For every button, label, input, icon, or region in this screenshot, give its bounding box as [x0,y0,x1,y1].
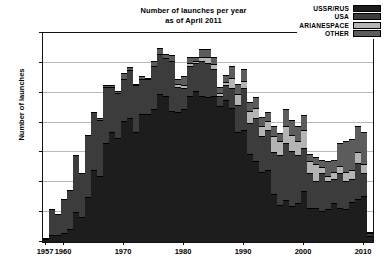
bar [349,139,354,242]
x-tick-label: 2000 [295,247,312,256]
bar-segment [325,176,330,180]
bar [133,84,138,242]
bar-segment [205,57,210,63]
legend-item: USA [299,13,381,22]
legend-item: ARIANESPACE [299,21,381,30]
bar [343,141,348,243]
bar-segment [283,200,288,242]
bar-segment [169,55,174,61]
bar-segment [145,78,150,79]
bar-segment [337,143,342,165]
x-tick-mark [363,241,364,245]
bar-segment [289,120,294,135]
bar-segment [79,217,84,242]
bar-segment [301,191,306,242]
bar-segment [199,57,204,61]
bar-segment [187,96,192,242]
bar-segment [247,102,252,111]
bar-segment [319,160,324,167]
bar-segment [181,109,186,242]
bar-segment [67,229,72,242]
bar-segment [313,181,318,208]
bar-segment [127,70,132,118]
bar-segment [295,203,300,242]
bar-segment [55,235,60,242]
bar-segment [115,138,120,243]
bar [367,232,372,242]
bar-segment [259,126,264,136]
bar [67,190,72,242]
bar-segment [277,141,282,156]
bar-segment [97,118,102,119]
bar-segment [229,108,234,242]
bar-segment [115,91,120,92]
bar-segment [331,203,336,242]
bar-segment [181,85,186,88]
x-tick-mark [63,241,64,245]
x-tick-mark [303,241,304,245]
bar [253,97,258,242]
bar-segment [175,112,180,242]
legend-item: USSR/RUS [299,4,381,13]
bar-segment [343,209,348,242]
bar-segment [121,73,126,79]
bar [259,117,264,242]
bar-segment [319,173,324,210]
bar-segment [271,136,276,152]
bar-segment [151,66,156,109]
bar-segment [355,126,360,153]
bar-segment [151,109,156,242]
bar-segment [295,126,300,141]
bar [151,61,156,242]
bar-segment [109,87,114,132]
bar [307,154,312,242]
bar [289,120,294,242]
legend-swatch [353,5,381,12]
bar [331,160,336,242]
bar-segment [199,49,204,56]
bar [313,157,318,242]
bar-segment [211,64,216,68]
bar-segment [157,54,162,94]
bar-segment [97,176,102,242]
bar-segment [187,63,192,66]
bar [163,54,168,242]
chart-container: Number of launches per year as of April … [0,0,387,271]
bar-segment [217,87,222,93]
bar-segment [133,84,138,85]
bar-segment [331,179,336,203]
bar-segment [277,205,282,242]
bar-segment [307,173,312,207]
bar-segment [163,96,168,242]
y-tick-mark [39,211,43,212]
bars-layer [43,33,373,242]
x-tick-label: 1957 [37,247,54,256]
bar-segment [97,120,102,177]
bar-segment [199,61,204,95]
bar [229,66,234,242]
bar [301,115,306,242]
bar [127,67,132,242]
bar [247,102,252,242]
bar-segment [133,85,138,131]
bar-segment [169,111,174,242]
bar-segment [127,118,132,242]
bar-segment [175,87,180,112]
bar-segment [283,143,288,200]
legend-swatch [353,13,381,20]
bar-segment [289,151,294,206]
bar-segment [223,75,228,82]
bar [175,79,180,242]
bar [187,57,192,242]
bar-segment [139,76,144,79]
y-tick-mark [39,32,43,33]
bar-segment [163,54,168,58]
bar-segment [55,214,60,235]
bar [283,109,288,242]
bar-segment [121,79,126,121]
bar-segment [193,57,198,61]
bar-segment [247,111,252,123]
bar-segment [91,170,96,242]
plot-area [42,32,374,243]
bar-segment [241,81,246,88]
